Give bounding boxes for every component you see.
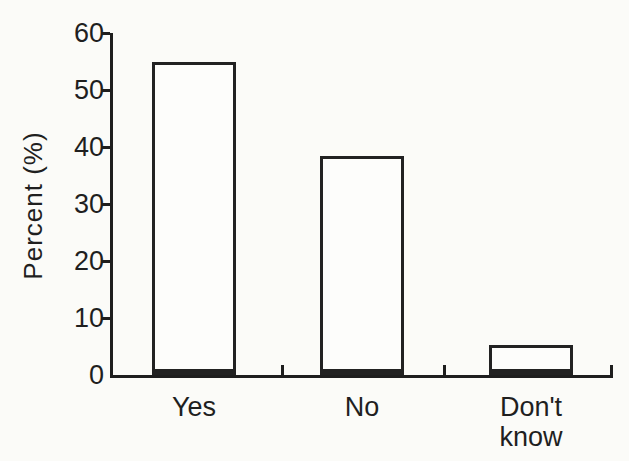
bar-don-t-know: [489, 345, 573, 375]
y-tick-label: 10: [34, 303, 104, 333]
y-tick-label: 50: [34, 75, 104, 105]
y-tick-label: 60: [34, 18, 104, 48]
y-tick-label: 30: [34, 189, 104, 219]
bar-no: [320, 156, 404, 375]
bar-chart-figure: Percent (%) 0102030405060YesNoDon't know: [0, 0, 629, 461]
x-tick: [610, 365, 613, 375]
x-tick: [281, 365, 284, 375]
y-axis-line: [110, 33, 113, 378]
y-tick-label: 20: [34, 246, 104, 276]
x-axis-line: [110, 375, 613, 378]
y-tick-label: 0: [34, 360, 104, 390]
x-category-label: Yes: [139, 392, 249, 422]
x-category-label: No: [307, 392, 417, 422]
plot-area: 0102030405060YesNoDon't know: [0, 0, 629, 461]
x-tick: [443, 365, 446, 375]
x-category-label: Don't know: [476, 392, 586, 452]
bar-yes: [152, 62, 236, 376]
y-tick-label: 40: [34, 132, 104, 162]
